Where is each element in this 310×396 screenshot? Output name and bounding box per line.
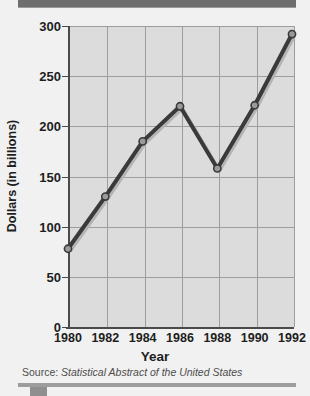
- data-point-marker: [251, 102, 258, 109]
- data-point-marker: [102, 193, 109, 200]
- series-line: [68, 34, 292, 249]
- data-series-line: [0, 0, 310, 396]
- source-note: Source: Statistical Abstract of the Unit…: [22, 366, 242, 378]
- data-point-marker: [288, 30, 295, 37]
- source-prefix: Source:: [22, 366, 58, 378]
- data-point-marker: [139, 138, 146, 145]
- bottom-decorative-tab: [30, 387, 47, 396]
- data-point-marker: [176, 103, 183, 110]
- data-point-marker: [64, 245, 71, 252]
- chart-figure: Dollars (in billions) 050100150200250300…: [0, 0, 310, 396]
- x-axis-title: Year: [0, 349, 310, 364]
- source-title: Statistical Abstract of the United State…: [61, 366, 242, 378]
- data-point-marker: [214, 165, 221, 172]
- bottom-decorative-band: [18, 383, 296, 387]
- series-line-shadow: [70, 36, 294, 251]
